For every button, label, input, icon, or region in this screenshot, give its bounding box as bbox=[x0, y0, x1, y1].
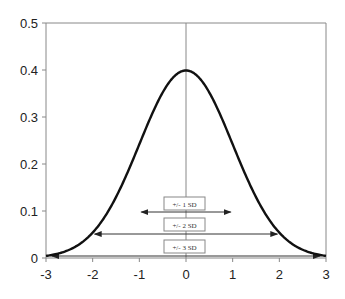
normal-distribution-chart: 00.10.20.30.40.5 -3-2-10123 +/- 1 SD+/- … bbox=[0, 0, 345, 299]
x-tick-label: 3 bbox=[322, 267, 329, 282]
y-tick-label: 0.3 bbox=[20, 110, 38, 125]
x-tick-label: 2 bbox=[276, 267, 283, 282]
sd-label-text: +/- 1 SD bbox=[172, 201, 196, 209]
y-tick-label: 0.2 bbox=[20, 157, 38, 172]
sd-annotation-1: +/- 1 SD bbox=[141, 197, 230, 212]
x-tick-label: -3 bbox=[40, 267, 52, 282]
sd-label-text: +/- 2 SD bbox=[172, 222, 196, 230]
x-tick-label: -1 bbox=[134, 267, 146, 282]
y-tick-label: 0.1 bbox=[20, 204, 38, 219]
y-tick-label: 0.5 bbox=[20, 16, 38, 31]
y-axis: 00.10.20.30.40.5 bbox=[20, 16, 46, 266]
sd-label-text: +/- 3 SD bbox=[172, 244, 196, 252]
y-tick-label: 0 bbox=[31, 251, 38, 266]
x-tick-label: 0 bbox=[182, 267, 189, 282]
y-tick-label: 0.4 bbox=[20, 63, 38, 78]
x-tick-label: -2 bbox=[87, 267, 99, 282]
sd-annotations: +/- 1 SD+/- 2 SD+/- 3 SD bbox=[52, 197, 320, 256]
x-axis: -3-2-10123 bbox=[40, 258, 329, 282]
x-tick-label: 1 bbox=[229, 267, 236, 282]
